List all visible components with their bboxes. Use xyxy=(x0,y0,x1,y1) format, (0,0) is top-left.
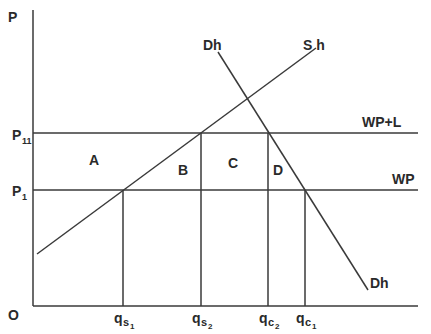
area-b-label: B xyxy=(178,162,188,178)
qc2-label: q c 2 xyxy=(259,310,280,331)
svg-text:1: 1 xyxy=(130,322,135,331)
svg-text:q: q xyxy=(259,310,268,326)
origin-label: O xyxy=(8,307,19,323)
svg-text:c: c xyxy=(305,316,311,328)
area-a-label: A xyxy=(89,152,99,168)
supply-curve xyxy=(37,48,316,254)
svg-text:q: q xyxy=(296,310,305,326)
tariff-diagram: P O P 11 P 1 WP+L WP S h Dh Dh A B C D q… xyxy=(0,0,431,334)
svg-text:q: q xyxy=(114,310,123,326)
svg-text:2: 2 xyxy=(275,322,280,331)
svg-text:q: q xyxy=(192,310,201,326)
qc1-label: q c 1 xyxy=(296,310,317,331)
y-axis-label: P xyxy=(8,9,17,25)
svg-text:1: 1 xyxy=(312,322,317,331)
svg-text:c: c xyxy=(268,316,274,328)
svg-text:s: s xyxy=(201,316,207,328)
wp-label: WP xyxy=(392,171,415,187)
demand-curve xyxy=(218,52,368,290)
svg-text:1: 1 xyxy=(22,192,27,202)
svg-text:2: 2 xyxy=(208,322,213,331)
qs1-label: q s 1 xyxy=(114,310,135,331)
svg-text:P: P xyxy=(12,183,21,199)
svg-text:P: P xyxy=(12,127,21,143)
p11-label: P 11 xyxy=(12,127,32,146)
supply-label: S h xyxy=(303,37,325,53)
qs2-label: q s 2 xyxy=(192,310,213,331)
svg-text:s: s xyxy=(123,316,129,328)
area-c-label: C xyxy=(228,155,238,171)
demand-label-bottom: Dh xyxy=(370,275,389,291)
area-d-label: D xyxy=(273,162,283,178)
demand-label-top: Dh xyxy=(203,37,222,53)
p1-label: P 1 xyxy=(12,183,27,202)
wp-plus-l-label: WP+L xyxy=(362,114,402,130)
svg-text:11: 11 xyxy=(22,136,32,146)
